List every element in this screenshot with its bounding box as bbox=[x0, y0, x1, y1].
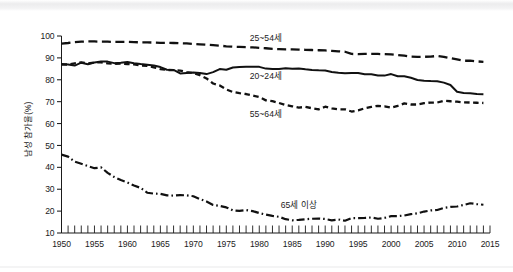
x-tick-label: 1990 bbox=[316, 239, 335, 249]
series-inline-labels: 25~54세20~24세55~64세65세 이상 bbox=[250, 33, 317, 209]
x-axis-ticks: 1950195519601965197019751980198519901995… bbox=[52, 239, 500, 249]
x-tick-label: 2005 bbox=[415, 239, 434, 249]
x-tick-label: 1975 bbox=[217, 239, 236, 249]
y-tick-label: 40 bbox=[45, 162, 55, 172]
series-label: 20~24세 bbox=[250, 71, 282, 81]
x-tick-label: 2015 bbox=[481, 239, 500, 249]
series-lines bbox=[62, 41, 484, 220]
series-label: 65세 이상 bbox=[281, 200, 317, 210]
y-tick-label: 80 bbox=[45, 75, 55, 85]
x-tick-label: 1955 bbox=[85, 239, 104, 249]
x-tick-label: 1985 bbox=[283, 239, 302, 249]
y-tick-label: 100 bbox=[40, 31, 54, 41]
x-tick-label: 1970 bbox=[184, 239, 203, 249]
series-label: 55~64세 bbox=[250, 109, 282, 119]
chart-figure: 남성 참가율(%) 102030405060708090100 19501955… bbox=[0, 0, 513, 272]
x-tick-label: 1965 bbox=[151, 239, 170, 249]
y-axis-title: 남성 참가율(%) bbox=[23, 102, 33, 158]
x-tick-label: 1980 bbox=[250, 239, 269, 249]
y-tick-label: 20 bbox=[45, 206, 55, 216]
x-axis-minor-ticks bbox=[62, 226, 491, 234]
y-tick-label: 60 bbox=[45, 119, 55, 129]
series-label: 25~54세 bbox=[250, 33, 282, 43]
y-tick-label: 30 bbox=[45, 184, 55, 194]
x-tick-label: 2010 bbox=[448, 239, 467, 249]
y-axis-ticks: 102030405060708090100 bbox=[40, 31, 61, 238]
series-line-65세 이상 bbox=[62, 155, 484, 221]
y-tick-label: 90 bbox=[45, 53, 55, 63]
x-tick-label: 2000 bbox=[382, 239, 401, 249]
x-tick-label: 1950 bbox=[52, 239, 71, 249]
line-chart-svg: 남성 참가율(%) 102030405060708090100 19501955… bbox=[0, 0, 513, 272]
y-tick-label: 70 bbox=[45, 97, 55, 107]
x-tick-label: 1995 bbox=[349, 239, 368, 249]
y-axis-title-text: 남성 참가율(%) bbox=[23, 102, 33, 158]
y-tick-label: 10 bbox=[45, 228, 55, 238]
y-tick-label: 50 bbox=[45, 141, 55, 151]
series-line-25~54세 bbox=[62, 41, 484, 61]
x-tick-label: 1960 bbox=[118, 239, 137, 249]
